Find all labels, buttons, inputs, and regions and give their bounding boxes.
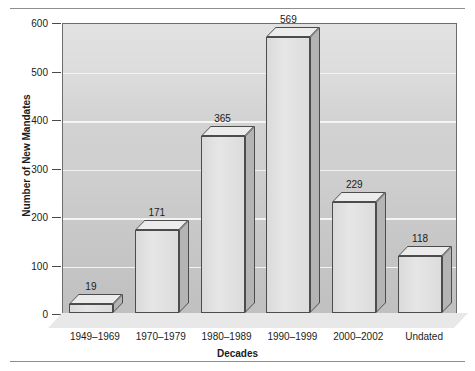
bar-side-face bbox=[179, 220, 189, 313]
bar: 118 bbox=[398, 256, 442, 313]
y-axis-tick-label: 400 bbox=[14, 115, 48, 126]
bar-value-label: 171 bbox=[148, 207, 165, 218]
x-axis-tick-label: 1990–1999 bbox=[267, 331, 317, 342]
gridline bbox=[63, 121, 456, 123]
bar-value-label: 19 bbox=[85, 281, 96, 292]
y-axis-tick-mark bbox=[52, 120, 61, 121]
y-axis-tick-label: 600 bbox=[14, 18, 48, 29]
x-axis-tick-label: 2000–2002 bbox=[333, 331, 383, 342]
bar-front-face bbox=[332, 202, 376, 313]
x-axis-title: Decades bbox=[0, 348, 475, 359]
y-axis-tick-mark bbox=[52, 217, 61, 218]
y-axis-tick-mark bbox=[52, 72, 61, 73]
bar: 19 bbox=[69, 304, 113, 313]
y-axis-tick-mark bbox=[52, 266, 61, 267]
bar-top-face bbox=[135, 220, 189, 230]
bar-value-label: 118 bbox=[412, 233, 428, 244]
bar-side-face bbox=[310, 27, 320, 313]
x-axis-tick-label: 1970–1979 bbox=[136, 331, 186, 342]
y-axis-tick-label: 300 bbox=[14, 163, 48, 174]
bar-value-label: 569 bbox=[280, 14, 297, 25]
x-axis-tick-label: Undated bbox=[405, 331, 443, 342]
bottom-divider-rule bbox=[10, 361, 465, 362]
bar-front-face bbox=[266, 37, 310, 313]
bar-side-face bbox=[376, 192, 386, 313]
bar-front-face bbox=[135, 230, 179, 313]
y-axis-tick-label: 200 bbox=[14, 212, 48, 223]
plot-floor-shadow bbox=[48, 313, 468, 328]
y-axis-tick-label: 500 bbox=[14, 66, 48, 77]
bar: 229 bbox=[332, 202, 376, 313]
plot-area: 19171365569229118 bbox=[62, 23, 457, 314]
gridline bbox=[63, 170, 456, 172]
bar-front-face bbox=[69, 304, 113, 313]
top-divider-rule bbox=[10, 8, 465, 9]
gridline bbox=[63, 267, 456, 269]
y-axis-tick-mark bbox=[52, 314, 61, 315]
y-axis-tick-label: 100 bbox=[14, 260, 48, 271]
bar: 365 bbox=[201, 136, 245, 313]
bar: 171 bbox=[135, 230, 179, 313]
x-axis-tick-label: 1949–1969 bbox=[70, 331, 120, 342]
x-axis-tick-label: 1980–1989 bbox=[202, 331, 252, 342]
bar-value-label: 229 bbox=[346, 179, 363, 190]
bar: 569 bbox=[266, 37, 310, 313]
bar-front-face bbox=[398, 256, 442, 313]
bar-top-face bbox=[201, 126, 255, 136]
y-axis-title: Number of New Mandates bbox=[21, 46, 32, 266]
y-axis-tick-mark bbox=[52, 169, 61, 170]
gridline bbox=[63, 73, 456, 75]
bar-side-face bbox=[442, 245, 452, 313]
bar-value-label: 365 bbox=[214, 113, 231, 124]
bar-front-face bbox=[201, 136, 245, 313]
bar-side-face bbox=[245, 126, 255, 313]
y-axis-tick-label: 0 bbox=[14, 309, 48, 320]
figure: Number of New Mandates 01002003004005006… bbox=[0, 0, 475, 371]
y-axis-tick-mark bbox=[52, 23, 61, 24]
bar-top-face bbox=[69, 294, 123, 304]
gridline bbox=[63, 218, 456, 220]
